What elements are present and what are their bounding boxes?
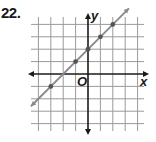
coordinate-graph: y x O <box>0 0 156 142</box>
data-point <box>86 47 91 52</box>
data-point <box>73 59 78 64</box>
plotted-line <box>31 8 129 106</box>
x-axis-left-arrow-icon <box>28 71 34 77</box>
y-axis-label: y <box>90 8 99 23</box>
data-point <box>98 34 103 39</box>
data-point <box>48 84 53 89</box>
origin-label: O <box>77 74 87 89</box>
x-axis-label: x <box>139 74 148 89</box>
data-point <box>110 22 115 27</box>
y-axis-down-arrow-icon <box>85 129 91 135</box>
axes: y x O <box>28 8 149 135</box>
